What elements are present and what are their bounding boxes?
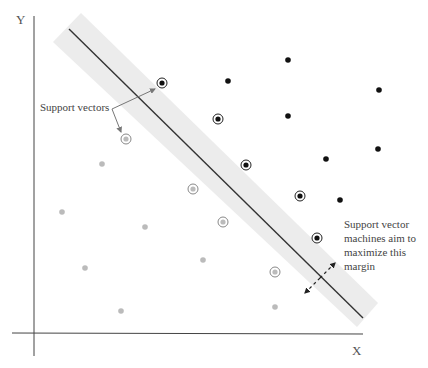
x-axis-label: X bbox=[352, 343, 362, 358]
class-a-support-vector bbox=[297, 193, 302, 198]
class-a-point bbox=[225, 78, 231, 84]
class-a-point bbox=[375, 146, 381, 152]
class-b-support-vector bbox=[123, 136, 128, 141]
class-b-point bbox=[272, 304, 278, 310]
class-b-point bbox=[200, 257, 206, 263]
svg-text:margin: margin bbox=[344, 260, 375, 272]
class-b-point bbox=[82, 265, 88, 271]
hyperplane-line bbox=[69, 29, 363, 318]
svm-diagram: Y X Support vectors Support vector machi… bbox=[0, 0, 428, 368]
x-axis bbox=[12, 333, 363, 334]
class-a-support-vector bbox=[314, 235, 319, 240]
svg-text:Support vector: Support vector bbox=[344, 218, 409, 230]
margin-band bbox=[53, 13, 378, 327]
class-b-point bbox=[59, 209, 65, 215]
svg-text:maximize this: maximize this bbox=[344, 246, 406, 258]
class-a-support-vector bbox=[243, 162, 248, 167]
class-a-support-vector bbox=[215, 116, 220, 121]
class-a-point bbox=[337, 197, 343, 203]
y-axis-label: Y bbox=[16, 12, 26, 27]
class-a-point bbox=[285, 57, 291, 63]
support-vectors-label: Support vectors bbox=[40, 101, 109, 113]
class-b-support-vector bbox=[220, 219, 225, 224]
class-a-support-vector bbox=[159, 80, 164, 85]
margin-annotation: Support vector machines aim to maximize … bbox=[344, 218, 417, 272]
class-a-point bbox=[285, 113, 291, 119]
class-b-support-vector bbox=[272, 269, 277, 274]
class-b-point bbox=[118, 308, 124, 314]
svg-text:machines aim to: machines aim to bbox=[344, 232, 417, 244]
class-b-point bbox=[142, 224, 148, 230]
class-a-point bbox=[376, 87, 382, 93]
class-b-support-vector bbox=[190, 186, 195, 191]
class-a-point bbox=[323, 156, 329, 162]
arrow-to-class-b-support bbox=[112, 109, 121, 132]
class-b-point bbox=[99, 161, 105, 167]
